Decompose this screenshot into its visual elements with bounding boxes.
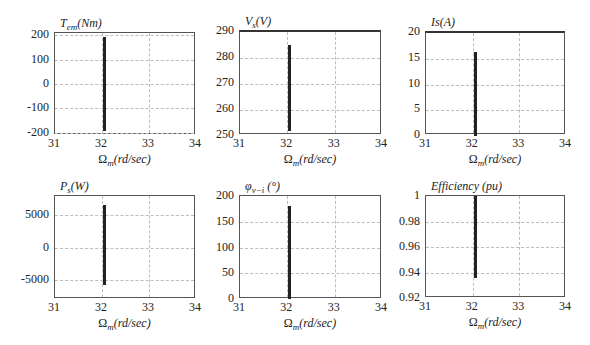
chart-title: φv−i (°) <box>245 179 280 195</box>
x-axis-unit: (rd/sec) <box>114 152 151 166</box>
x-axis-label: Ωm(rd/sec) <box>55 152 195 168</box>
x-tick-label: 32 <box>457 137 487 149</box>
omega-symbol: Ω <box>469 315 478 329</box>
y-tick-label: 15 <box>370 51 420 63</box>
omega-symbol: Ω <box>98 316 107 330</box>
grid-line-horizontal <box>55 60 194 61</box>
y-tick-label: 0.94 <box>370 266 420 278</box>
grid-line-horizontal <box>55 215 194 216</box>
grid-line-vertical <box>149 33 150 133</box>
data-line-Vs <box>288 45 291 131</box>
plot-area <box>239 30 381 134</box>
data-line-Ps <box>103 205 106 285</box>
x-axis-label: Ωm(rd/sec) <box>425 152 565 168</box>
plot-area <box>425 31 565 134</box>
x-tick-label: 32 <box>271 301 301 313</box>
y-tick-label: 260 <box>184 102 234 114</box>
chart-title: Vs(V) <box>245 14 271 30</box>
y-tick-label: 100 <box>0 53 49 65</box>
title-main: Efficiency (pu) <box>431 179 502 193</box>
data-line-eff <box>474 196 477 278</box>
x-tick-label: 32 <box>86 137 116 149</box>
y-tick-label: 290 <box>184 24 234 36</box>
omega-symbol: Ω <box>284 316 293 330</box>
y-tick-label: 5000 <box>0 208 49 220</box>
y-tick-label: 100 <box>184 241 234 253</box>
x-tick-label: 32 <box>457 300 487 312</box>
grid-line-horizontal <box>240 222 380 223</box>
y-tick-label: 50 <box>184 266 234 278</box>
omega-symbol: Ω <box>98 152 107 166</box>
grid-line-horizontal <box>240 58 380 59</box>
chart-title: Ps(W) <box>60 179 89 195</box>
plot-area <box>54 195 195 298</box>
grid-line-vertical <box>335 32 336 133</box>
x-tick-label: 34 <box>550 137 580 149</box>
y-tick-label: 270 <box>184 76 234 88</box>
omega-symbol: Ω <box>469 152 478 166</box>
chart-title: Is(A) <box>431 15 455 30</box>
x-axis-label: Ωm(rd/sec) <box>55 316 195 332</box>
y-tick-label: 1 <box>370 189 420 201</box>
x-tick-label: 33 <box>319 137 349 149</box>
title-unit: (V) <box>256 14 271 28</box>
x-tick-label: 33 <box>503 300 533 312</box>
grid-line-vertical <box>335 196 336 297</box>
grid-line-horizontal <box>426 59 564 60</box>
grid-line-horizontal <box>426 110 564 111</box>
y-tick-label: 0.92 <box>370 291 420 303</box>
y-tick-label: 0 <box>370 128 420 140</box>
y-tick-label: 0.98 <box>370 215 420 227</box>
title-unit: (W) <box>71 179 89 193</box>
title-unit: (Nm) <box>77 16 102 30</box>
title-main: Is(A) <box>431 15 455 29</box>
grid-line-horizontal <box>426 273 564 274</box>
grid-line-vertical <box>519 33 520 133</box>
grid-line-vertical <box>149 196 150 297</box>
x-tick-label: 31 <box>39 301 69 313</box>
y-tick-label: 10 <box>370 77 420 89</box>
x-axis-unit: (rd/sec) <box>299 152 336 166</box>
omega-symbol: Ω <box>284 152 293 166</box>
y-tick-label: 0 <box>184 292 234 304</box>
grid-line-horizontal <box>426 85 564 86</box>
x-axis-label: Ωm(rd/sec) <box>240 316 380 332</box>
x-axis-unit: (rd/sec) <box>484 315 521 329</box>
y-tick-label: 5 <box>370 102 420 114</box>
chart-title: Tem(Nm) <box>60 16 102 32</box>
grid-line-horizontal <box>240 273 380 274</box>
y-tick-label: 150 <box>184 215 234 227</box>
title-subscript: em <box>67 22 78 32</box>
y-tick-label: 20 <box>370 25 420 37</box>
x-tick-label: 33 <box>133 301 163 313</box>
plot-area <box>239 195 381 298</box>
y-tick-label: -100 <box>0 101 49 113</box>
x-tick-label: 31 <box>39 137 69 149</box>
y-tick-label: 200 <box>0 28 49 40</box>
grid-line-horizontal <box>426 222 564 223</box>
grid-line-horizontal <box>240 248 380 249</box>
grid-line-horizontal <box>240 84 380 85</box>
x-tick-label: 33 <box>133 137 163 149</box>
chart-title: Efficiency (pu) <box>431 179 502 194</box>
plot-area <box>425 195 565 297</box>
y-tick-label: 280 <box>184 50 234 62</box>
x-axis-label: Ωm(rd/sec) <box>240 152 380 168</box>
y-tick-label: 0 <box>0 77 49 89</box>
data-line-Tem <box>103 37 106 132</box>
x-tick-label: 32 <box>86 301 116 313</box>
title-unit: (°) <box>264 179 280 193</box>
grid-line-horizontal <box>55 133 194 134</box>
x-tick-label: 32 <box>271 137 301 149</box>
x-axis-label: Ωm(rd/sec) <box>425 315 565 331</box>
data-line-phi <box>288 206 291 299</box>
grid-line-horizontal <box>55 248 194 249</box>
x-axis-unit: (rd/sec) <box>114 316 151 330</box>
x-tick-label: 33 <box>503 137 533 149</box>
y-tick-label: 250 <box>184 128 234 140</box>
title-main: φ <box>245 179 252 193</box>
plot-area <box>54 32 195 134</box>
grid-line-horizontal <box>55 84 194 85</box>
y-tick-label: -5000 <box>0 273 49 285</box>
grid-line-vertical <box>519 196 520 296</box>
